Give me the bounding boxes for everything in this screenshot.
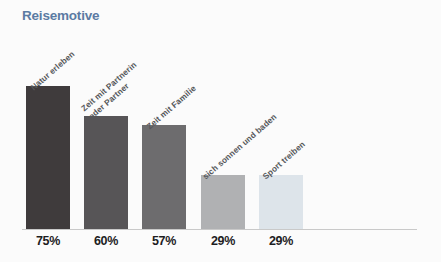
chart-figure: Reisemotive Natur erleben 75% Zeit mit P… — [0, 0, 441, 262]
bar[interactable] — [142, 125, 186, 229]
bar-category-label: Zeit mit Partnerin oder Partner — [79, 60, 147, 123]
bar[interactable] — [26, 86, 70, 229]
bar-value-label: 75% — [22, 234, 74, 248]
bar-value-label: 60% — [80, 234, 132, 248]
bar-value-label: 29% — [255, 234, 307, 248]
bar-value-label: 57% — [138, 234, 190, 248]
bar[interactable] — [201, 175, 245, 229]
bar[interactable] — [84, 116, 128, 229]
plot-area: Natur erleben 75% Zeit mit Partnerin ode… — [0, 0, 441, 262]
bar[interactable] — [259, 175, 303, 229]
bar-value-label: 29% — [197, 234, 249, 248]
x-axis-line — [22, 229, 417, 230]
